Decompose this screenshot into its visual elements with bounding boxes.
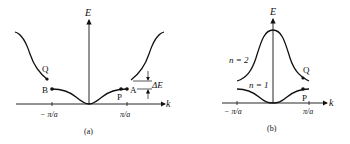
point-q [301,76,304,79]
panel-a: E k − π/a π/a Q B P A ΔE (a) [15,7,171,136]
tick-label-left: − π/a [224,107,242,116]
caption-b: (b) [267,124,277,133]
point-p [119,87,123,91]
gap-label: ΔE [151,80,163,90]
point-b [50,87,54,91]
label-q: Q [303,65,310,75]
point-q [45,77,48,80]
band-structure-figure: E k − π/a π/a Q B P A ΔE (a) [0,0,350,144]
point-a [125,87,129,91]
tick-label-left: − π/a [40,110,58,119]
label-n2: n = 2 [229,55,249,65]
tick-label-right: π/a [303,107,313,116]
caption-a: (a) [84,127,93,136]
upper-band-right [131,32,164,80]
tick-label-right: π/a [120,110,130,119]
label-a: A [130,85,137,95]
e-axis-label: E [269,6,276,17]
label-p: P [117,92,122,102]
point-p [301,87,305,91]
lower-band-curve [52,89,127,104]
k-axis-label: k [166,98,171,109]
k-axis-label: k [329,97,334,108]
label-b: B [42,85,48,95]
label-p: P [302,93,307,103]
panel-b: E k − π/a π/a n = 2 n = 1 Q P (b) [222,6,334,133]
label-n1: n = 1 [249,80,269,90]
gap-indicator: ΔE [133,71,163,99]
e-axis-label: E [84,7,91,18]
label-q: Q [42,64,49,74]
